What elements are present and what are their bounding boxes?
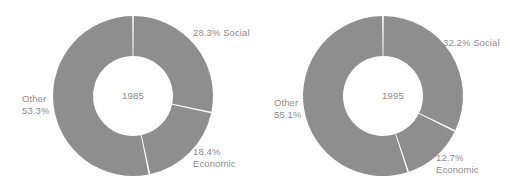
slice-label-economic-1995: 12.7% Economic bbox=[436, 152, 479, 175]
center-year-label-1985: 1985 bbox=[93, 90, 173, 101]
chart-panel-1985: 1985 28.3% Social 18.4% Economic Other 5… bbox=[0, 0, 262, 192]
chart-panel-1995: 1995 32.2% Social 12.7% Economic Other 5… bbox=[262, 0, 524, 192]
slice-label-other-1985: Other 53.3% bbox=[22, 93, 49, 116]
center-year-label-1995: 1995 bbox=[353, 90, 433, 101]
slice-label-economic-1985: 18.4% Economic bbox=[193, 146, 236, 169]
slice-label-social-1985: 28.3% Social bbox=[193, 27, 250, 39]
slice-social-1995[interactable] bbox=[383, 16, 463, 130]
donut-chart-figure: 1985 28.3% Social 18.4% Economic Other 5… bbox=[0, 0, 525, 192]
slice-label-other-1995: Other 55.1% bbox=[274, 97, 301, 120]
slice-label-social-1995: 32.2% Social bbox=[443, 37, 500, 49]
